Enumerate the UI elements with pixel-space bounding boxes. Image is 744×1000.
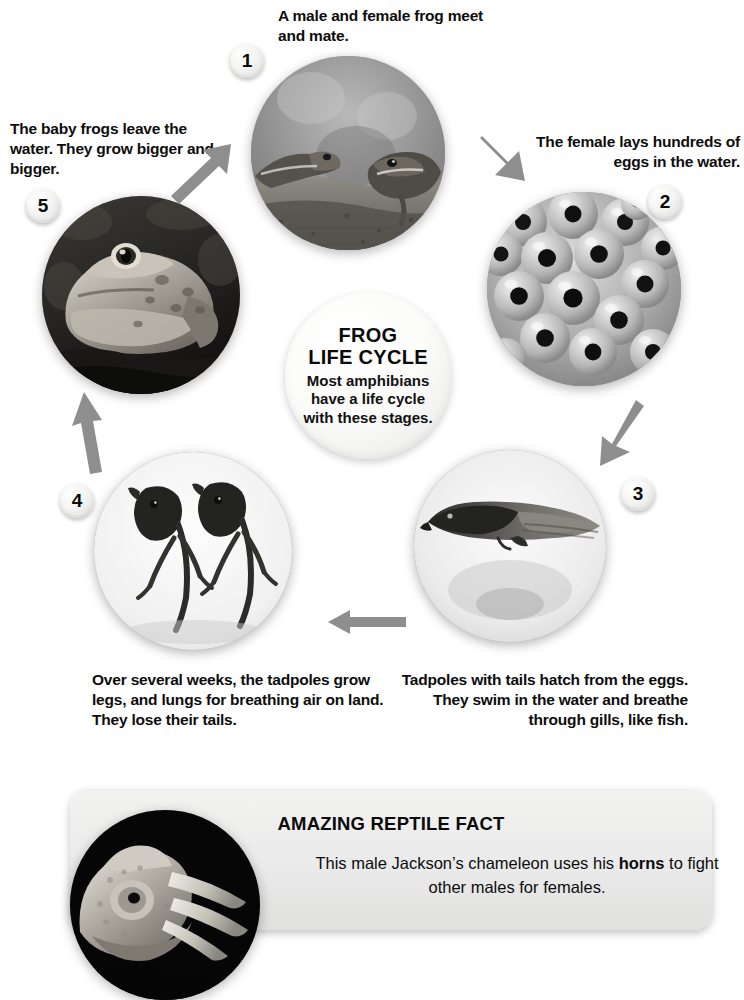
arrow-stage5-to-stage1 — [163, 140, 235, 208]
stage-5-photo — [42, 196, 240, 394]
stage-3-caption: Tadpoles with tails hatch from the eggs.… — [396, 670, 688, 729]
hub-title: FROG LIFE CYCLE — [308, 324, 428, 369]
life-cycle-hub: FROG LIFE CYCLE Most amphibians have a l… — [285, 293, 451, 459]
chameleon-photo — [70, 810, 260, 1000]
stage-1-photo — [251, 56, 445, 250]
arrow-down-right-icon — [478, 132, 540, 194]
fact-body-before: This male Jackson’s chameleon uses his — [315, 854, 618, 872]
arrow-up-icon — [62, 390, 110, 476]
hub-title-line1: FROG — [308, 324, 428, 346]
arrow-stage1-to-stage2 — [478, 132, 540, 194]
stage-4-caption: Over several weeks, the tadpoles grow le… — [92, 670, 392, 729]
stage-3-photo — [414, 450, 606, 642]
arrow-stage3-to-stage4 — [326, 608, 408, 636]
tadpoles-with-legs-photo — [94, 452, 292, 650]
arrow-up-right-icon — [163, 140, 235, 208]
tadpole-photo — [414, 450, 606, 642]
stage-4-photo — [94, 452, 292, 650]
arrow-stage4-to-stage5 — [62, 390, 110, 476]
arrow-stage2-to-stage3 — [592, 398, 650, 472]
hub-title-line2: LIFE CYCLE — [308, 346, 428, 368]
stage-5-number-badge: 5 — [26, 189, 60, 223]
frog-eggs-photo — [487, 192, 681, 386]
fact-body-bold-term: horns — [619, 854, 665, 872]
arrow-left-icon — [326, 608, 408, 636]
stage-4-number-badge: 4 — [60, 484, 94, 518]
stage-2-caption: The female lays hundreds of eggs in the … — [508, 132, 740, 172]
stage-3-number-badge: 3 — [621, 477, 655, 511]
arrow-down-left-icon — [592, 398, 650, 472]
fact-panel-body: This male Jackson’s chameleon uses his h… — [302, 852, 732, 900]
adult-frog-photo — [42, 196, 240, 394]
stage-2-photo — [487, 192, 681, 386]
jacksons-chameleon-photo — [70, 810, 260, 1000]
stage-2-number-badge: 2 — [648, 185, 682, 219]
two-frogs-mating-photo — [251, 56, 445, 250]
hub-subtitle: Most amphibians have a life cycle with t… — [285, 372, 451, 429]
stage-1-caption: A male and female frog meet and mate. — [278, 6, 508, 46]
stage-1-number-badge: 1 — [230, 44, 264, 78]
